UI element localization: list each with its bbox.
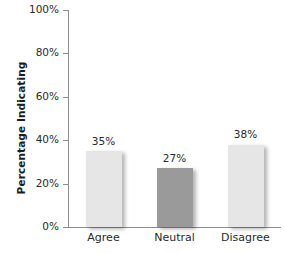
x-axis-line [68, 227, 281, 228]
plot-area: 35%27%38% [68, 10, 281, 227]
bar[interactable] [157, 168, 193, 227]
bar-group[interactable]: 27% [157, 10, 193, 227]
y-axis-tick-label: 0% [17, 221, 59, 232]
y-axis-tick-label: 80% [17, 47, 59, 58]
y-axis-tick-label: 60% [17, 91, 59, 102]
bar[interactable] [86, 151, 122, 227]
y-axis-title: Percentage Indicating [15, 33, 27, 223]
y-axis-tick-label: 40% [17, 134, 59, 145]
bar-value-label: 35% [72, 136, 136, 147]
x-axis-category-label: Disagree [196, 232, 284, 243]
bar-group[interactable]: 35% [86, 10, 122, 227]
y-axis-tick [63, 227, 69, 228]
bar-value-label: 38% [214, 129, 278, 140]
bar-group[interactable]: 38% [228, 10, 264, 227]
bar[interactable] [228, 145, 264, 227]
bar-chart: Percentage Indicating 0%20%40%60%80%100%… [0, 0, 283, 253]
y-axis-tick-label: 20% [17, 178, 59, 189]
bar-value-label: 27% [143, 153, 207, 164]
y-axis-tick-label: 100% [17, 4, 59, 15]
